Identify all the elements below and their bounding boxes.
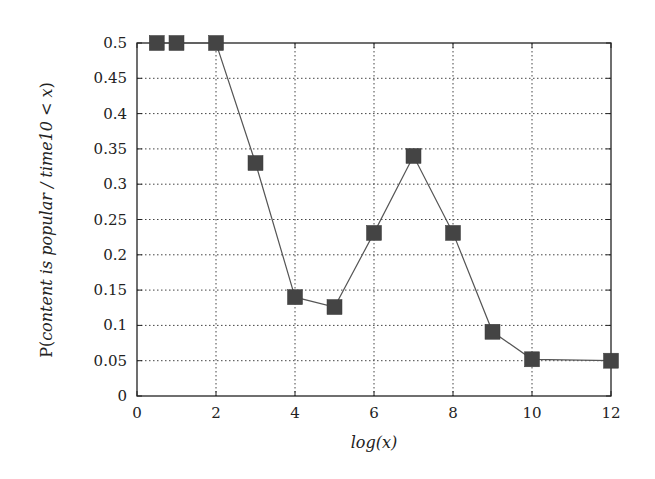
y-tick-label: 0.45	[94, 69, 127, 87]
data-point-marker	[406, 148, 421, 163]
y-tick-label: 0.1	[103, 316, 127, 334]
x-tick-label: 6	[369, 404, 379, 422]
data-point-marker	[446, 225, 461, 240]
data-point-marker	[209, 36, 224, 51]
series-line	[157, 43, 611, 361]
y-tick-label: 0.3	[103, 175, 127, 193]
y-tick-label: 0.05	[94, 352, 127, 370]
x-axis-label: log(x)	[351, 433, 398, 452]
y-tick-label: 0.15	[94, 281, 127, 299]
data-point-marker	[485, 324, 500, 339]
data-point-marker	[604, 353, 619, 368]
y-tick-label: 0.2	[103, 246, 127, 264]
y-axis-label-body: content is popular / time10 < x	[37, 88, 56, 340]
data-point-marker	[248, 156, 263, 171]
x-tick-label: 4	[290, 404, 300, 422]
data-point-marker	[149, 36, 164, 51]
x-tick-label: 0	[132, 404, 142, 422]
y-tick-label: 0.4	[103, 105, 127, 123]
data-point-marker	[327, 300, 342, 315]
y-tick-label: 0	[117, 387, 127, 405]
y-axis-label: P(content is popular / time10 < x)	[37, 82, 56, 358]
data-point-marker	[367, 225, 382, 240]
y-tick-label: 0.5	[103, 34, 127, 52]
data-point-marker	[288, 290, 303, 305]
grid-lines	[137, 43, 611, 396]
line-chart: 00.050.10.150.20.250.30.350.40.450.50246…	[0, 0, 655, 479]
x-tick-label: 2	[211, 404, 221, 422]
y-tick-label: 0.25	[94, 211, 127, 229]
axis-ticks: 00.050.10.150.20.250.30.350.40.450.50246…	[94, 34, 621, 422]
y-tick-label: 0.35	[94, 140, 127, 158]
data-point-marker	[525, 352, 540, 367]
x-tick-label: 8	[448, 404, 458, 422]
data-point-marker	[169, 36, 184, 51]
x-tick-label: 10	[522, 404, 541, 422]
x-tick-label: 12	[601, 404, 620, 422]
data-series	[149, 36, 618, 369]
y-axis-label-suffix: )	[37, 82, 56, 88]
y-axis-label-prefix: P(	[37, 341, 56, 358]
